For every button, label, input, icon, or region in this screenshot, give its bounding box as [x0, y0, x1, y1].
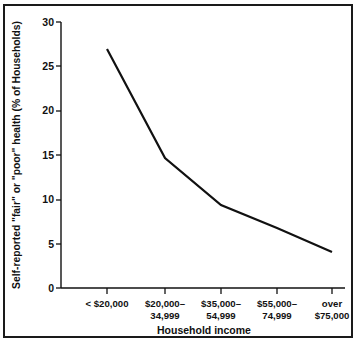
- y-axis-title: Self-reported "fair" or "poor" health (%…: [11, 21, 22, 289]
- x-cat-label-0-line1: < $20,000: [86, 298, 129, 309]
- line-chart: Self-reported "fair" or "poor" health (%…: [0, 0, 360, 352]
- x-cat-label-1-line2: 34,999: [150, 310, 179, 321]
- x-cat-label-4-line1: over: [322, 298, 343, 309]
- y-tick-label-30: 30: [42, 16, 54, 28]
- y-tick-label-20: 20: [42, 104, 54, 116]
- y-tick-label-15: 15: [42, 149, 54, 161]
- data-series-line: [107, 49, 332, 252]
- x-cat-label-2-line2: 54,999: [206, 310, 235, 321]
- x-cat-label-3-line2: 74,999: [262, 310, 291, 321]
- x-axis-title: Household income: [157, 324, 251, 336]
- x-cat-label-2-line1: $35,000–: [201, 298, 242, 309]
- y-tick-label-10: 10: [42, 193, 54, 205]
- y-tick-label-25: 25: [42, 60, 54, 72]
- y-tick-label-5: 5: [48, 238, 54, 250]
- figure-container: Self-reported "fair" or "poor" health (%…: [0, 0, 360, 352]
- y-tick-label-0: 0: [48, 282, 54, 294]
- x-cat-label-3-line1: $55,000–: [257, 298, 298, 309]
- x-cat-label-1-line1: $20,000–: [145, 298, 186, 309]
- x-cat-label-4-line2: $75,000: [315, 310, 350, 321]
